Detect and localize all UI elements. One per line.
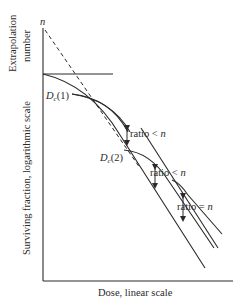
dc2-label: Dc(2) <box>99 152 123 165</box>
n-marker: n <box>40 16 45 27</box>
y-axis-label: Surviving fraction, logarithmic scale <box>21 101 32 255</box>
extrapolation-label-2: number <box>21 29 32 62</box>
extrapolation-label-1: Extrapolation <box>7 14 18 72</box>
fraction-curve-1-tail <box>72 94 130 132</box>
ratio-label-3: ratio = n <box>177 201 213 212</box>
fraction-curve-1 <box>72 94 128 132</box>
ratio-label-2: ratio < n <box>150 167 186 178</box>
x-axis-label: Dose, linear scale <box>98 287 173 298</box>
ratio-label-1: ratio < n <box>130 128 166 139</box>
fraction-line-1b <box>141 128 218 248</box>
dc1-label: Dc(1) <box>45 90 69 103</box>
survival-curve-diagram: n Extrapolation number Surviving fractio… <box>0 0 251 302</box>
